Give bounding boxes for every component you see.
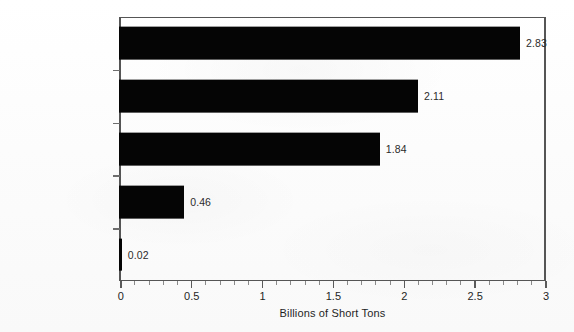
x-tick-minor bbox=[248, 281, 249, 285]
x-tick-major bbox=[474, 281, 476, 288]
x-tick-label: 0 bbox=[118, 290, 124, 302]
bar-chart: British ColumbiaAlbertaSaskatchewanNova … bbox=[0, 0, 574, 332]
x-tick-minor bbox=[489, 281, 490, 285]
x-tick-minor bbox=[503, 281, 504, 285]
x-tick-major bbox=[191, 281, 193, 288]
category-tick bbox=[113, 228, 120, 229]
x-tick-minor bbox=[432, 281, 433, 285]
x-tick-major bbox=[262, 281, 264, 288]
bar-band: 1.84 bbox=[119, 123, 546, 176]
bar-value-label: 0.02 bbox=[128, 249, 149, 261]
x-tick-minor bbox=[347, 281, 348, 285]
x-tick-minor bbox=[446, 281, 447, 285]
x-tick-minor bbox=[319, 281, 320, 285]
x-tick-minor bbox=[305, 281, 306, 285]
x-tick-minor bbox=[220, 281, 221, 285]
x-tick-minor bbox=[149, 281, 150, 285]
bar-band: 0.02 bbox=[119, 228, 546, 281]
x-tick-major bbox=[404, 281, 406, 288]
x-tick-label: 3 bbox=[543, 290, 549, 302]
category-tick bbox=[113, 70, 120, 71]
x-tick-minor bbox=[276, 281, 277, 285]
x-tick-minor bbox=[418, 281, 419, 285]
x-tick-label: 1.5 bbox=[326, 290, 341, 302]
bar[interactable] bbox=[119, 80, 418, 113]
x-tick-minor bbox=[177, 281, 178, 285]
bar-band: 2.11 bbox=[119, 70, 546, 123]
plot-area: 2.832.111.840.460.02 00.511.522.53 bbox=[119, 17, 546, 281]
x-tick-major bbox=[545, 281, 547, 288]
bar-value-label: 2.83 bbox=[526, 37, 547, 49]
x-tick-minor bbox=[290, 281, 291, 285]
x-axis-title: Billions of Short Tons bbox=[119, 307, 546, 319]
x-tick-major bbox=[333, 281, 335, 288]
x-tick-minor bbox=[531, 281, 532, 285]
x-tick-minor bbox=[390, 281, 391, 285]
x-tick-minor bbox=[234, 281, 235, 285]
x-tick-major bbox=[120, 281, 122, 288]
x-tick-label: 0.5 bbox=[184, 290, 199, 302]
category-tick bbox=[113, 123, 120, 124]
x-tick-minor bbox=[517, 281, 518, 285]
bar[interactable] bbox=[119, 238, 122, 271]
x-tick-minor bbox=[134, 281, 135, 285]
x-tick-minor bbox=[460, 281, 461, 285]
category-tick bbox=[113, 175, 120, 176]
x-tick-minor bbox=[205, 281, 206, 285]
bar-band: 2.83 bbox=[119, 17, 546, 70]
bar-band: 0.46 bbox=[119, 175, 546, 228]
bar[interactable] bbox=[119, 133, 380, 166]
bar[interactable] bbox=[119, 185, 184, 218]
x-tick-label: 2.5 bbox=[467, 290, 482, 302]
bar-value-label: 2.11 bbox=[424, 90, 444, 102]
x-tick-label: 2 bbox=[401, 290, 407, 302]
x-tick-minor bbox=[163, 281, 164, 285]
x-tick-label: 1 bbox=[259, 290, 265, 302]
bar[interactable] bbox=[119, 27, 520, 60]
bar-value-label: 0.46 bbox=[190, 196, 211, 208]
x-tick-minor bbox=[375, 281, 376, 285]
bar-value-label: 1.84 bbox=[386, 143, 407, 155]
x-tick-minor bbox=[361, 281, 362, 285]
